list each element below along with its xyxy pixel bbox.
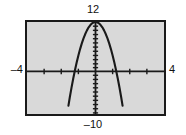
graphing-calculator-figure: 12 –10 –4 4 <box>0 0 186 135</box>
x-min-label: –4 <box>2 64 23 75</box>
calculator-screen <box>25 20 166 116</box>
y-max-label: 12 <box>0 4 186 15</box>
plot-canvas <box>27 22 164 114</box>
y-min-label: –10 <box>0 119 186 130</box>
x-max-label: 4 <box>169 64 185 75</box>
